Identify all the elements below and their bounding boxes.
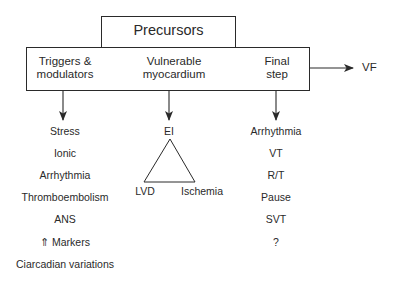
stage-vulnerable-line1: Vulnerable [136, 55, 212, 68]
final-step-item: SVT [266, 213, 286, 225]
trigger-item: ⇑ Markers [40, 236, 90, 248]
final-step-item: ? [273, 236, 279, 248]
stage-vulnerable-line2: myocardium [136, 68, 212, 81]
precursors-label: Precursors [101, 22, 236, 39]
triangle-apex-label: EI [164, 125, 174, 137]
stage-final: Final step [252, 55, 302, 81]
final-step-item: R/T [268, 169, 285, 181]
trigger-item: Ciarcadian variations [16, 258, 114, 270]
triangle-right-label: Ischemia [181, 185, 223, 197]
final-step-item: Pause [261, 191, 291, 203]
stage-triggers-line1: Triggers & [30, 55, 100, 68]
final-step-item: Arrhythmia [251, 125, 302, 137]
vulnerability-triangle [144, 139, 195, 182]
stage-final-line2: step [252, 68, 302, 81]
trigger-item: Stress [50, 125, 80, 137]
trigger-item: Arrhythmia [40, 169, 91, 181]
stage-vulnerable: Vulnerable myocardium [136, 55, 212, 81]
stage-triggers: Triggers & modulators [30, 55, 100, 81]
final-step-item: VT [269, 147, 282, 159]
triangle-left-label: LVD [135, 185, 155, 197]
trigger-item: Ionic [54, 147, 76, 159]
stage-triggers-line2: modulators [30, 68, 100, 81]
stage-final-line1: Final [252, 55, 302, 68]
trigger-item: Thromboembolism [22, 191, 109, 203]
trigger-item: ANS [54, 213, 76, 225]
outcome-vf: VF [362, 61, 377, 74]
